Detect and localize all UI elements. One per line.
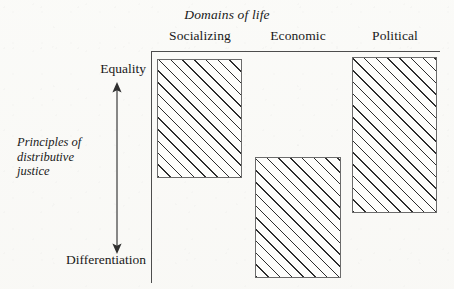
double-headed-arrow-icon (106, 82, 128, 254)
figure-canvas: Domains of life Socializing Economic Pol… (0, 0, 454, 289)
axis-line-vertical (151, 52, 152, 283)
column-header-socializing: Socializing (150, 28, 250, 43)
bar-political (352, 57, 437, 213)
column-header-political: Political (345, 28, 445, 43)
bar-economic (255, 157, 341, 278)
column-header-economic: Economic (248, 28, 348, 43)
y-axis-label-differentiation: Differentiation (0, 252, 146, 267)
x-axis-title: Domains of life (0, 7, 454, 22)
axis-line-horizontal (151, 51, 440, 52)
y-axis-label-equality: Equality (0, 61, 146, 76)
bar-socializing (157, 59, 242, 178)
